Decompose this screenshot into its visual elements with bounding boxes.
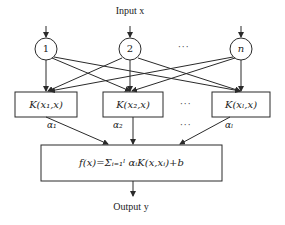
input-node-2: 2: [119, 38, 141, 60]
input-node-1: 1: [35, 38, 57, 60]
weight-alpha-1: α₁: [47, 120, 57, 130]
input-node-n: n: [230, 38, 252, 60]
weight-alpha-2: α₂: [113, 120, 123, 130]
output-label: Output y: [0, 201, 262, 212]
weight-ellipsis: ···: [180, 120, 192, 130]
kernel-node-l: K(xₗ,x): [212, 92, 270, 117]
input-label: Input x: [0, 5, 260, 16]
output-formula: f(x)=Σᵢ₌₁ˡ αᵢK(x,xᵢ)+b: [41, 145, 222, 181]
input-ellipsis: ···: [178, 42, 190, 52]
weight-alpha-l: αₗ: [225, 120, 233, 130]
kernel-node-1: K(x₁,x): [15, 92, 77, 117]
kernel-ellipsis: ···: [180, 99, 192, 109]
kernel-node-2: K(x₂,x): [103, 92, 163, 117]
